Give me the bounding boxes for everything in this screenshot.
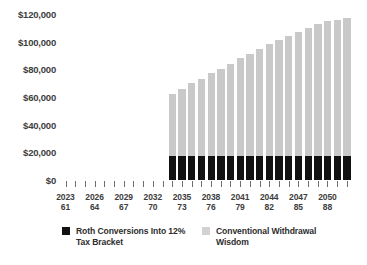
bar-group (158, 14, 168, 180)
bar-group (110, 14, 120, 180)
x-axis-tick (201, 181, 202, 187)
bar-group (333, 14, 343, 180)
bar-roth-conversions (178, 156, 185, 180)
y-axis-tick-label: $40,000 (23, 119, 56, 130)
x-axis-tick (66, 181, 67, 187)
bar-group (129, 14, 139, 180)
x-axis-tick (172, 181, 173, 187)
bar-roth-conversions (217, 156, 224, 180)
x-axis-tick (75, 181, 76, 187)
x-axis-tick (182, 181, 183, 187)
bar-group (80, 14, 90, 180)
legend-label-conventional: Conventional Withdrawal Wisdom (216, 226, 334, 248)
x-axis-tick (279, 181, 280, 187)
bar-roth-conversions (246, 156, 253, 180)
bar-roth-conversions (237, 156, 244, 180)
bar-roth-conversions (314, 156, 321, 180)
bar-group (139, 14, 149, 180)
x-axis-tick (260, 181, 261, 187)
bar-group (226, 14, 236, 180)
x-axis-tick (308, 181, 309, 187)
bar-group (61, 14, 71, 180)
x-axis-tick (124, 181, 125, 187)
x-axis-tick (347, 181, 348, 187)
bar-roth-conversions (295, 156, 302, 180)
x-axis-tick-label: 205088 (310, 192, 344, 213)
bar-group (168, 14, 178, 180)
legend-label-roth: Roth Conversions Into 12% Tax Bracket (76, 226, 194, 248)
legend-swatch-icon-roth (62, 227, 70, 235)
bar-roth-conversions (275, 156, 282, 180)
x-axis-tick (221, 181, 222, 187)
bar-roth-conversions (208, 156, 215, 180)
x-axis-tick (153, 181, 154, 187)
bar-group (304, 14, 314, 180)
bar-group (323, 14, 333, 180)
legend-swatch-icon-conventional (202, 227, 210, 235)
bar-group (119, 14, 129, 180)
bar-group (236, 14, 246, 180)
x-axis-tick (269, 181, 270, 187)
bar-roth-conversions (188, 156, 195, 180)
x-axis-year: 2050 (310, 192, 344, 202)
y-axis-tick-label: $80,000 (23, 64, 56, 75)
plot-area (61, 14, 361, 180)
y-axis-tick-label: $0 (46, 175, 56, 186)
bar-group (342, 14, 352, 180)
x-axis-tick (298, 181, 299, 187)
bar-group (187, 14, 197, 180)
bar-roth-conversions (324, 156, 331, 180)
bar-chart: $120,000$100,000$80,000$60,000$40,000$20… (0, 0, 367, 265)
x-axis-tick (240, 181, 241, 187)
bar-roth-conversions (334, 156, 341, 180)
x-axis-tick (104, 181, 105, 187)
bar-roth-conversions (266, 156, 273, 180)
x-axis-tick (163, 181, 164, 187)
x-axis-tick (289, 181, 290, 187)
bar-group (216, 14, 226, 180)
bar-group (265, 14, 275, 180)
bar-group (177, 14, 187, 180)
bar-group (284, 14, 294, 180)
bar-roth-conversions (305, 156, 312, 180)
x-axis-tick (114, 181, 115, 187)
bar-group (100, 14, 110, 180)
bar-roth-conversions (227, 156, 234, 180)
bar-group (313, 14, 323, 180)
x-axis-tick (211, 181, 212, 187)
x-axis-tick (85, 181, 86, 187)
bar-group (207, 14, 217, 180)
y-axis-tick-label: $120,000 (18, 9, 56, 20)
y-axis-tick-label: $60,000 (23, 92, 56, 103)
bar-group (197, 14, 207, 180)
x-axis-tick (337, 181, 338, 187)
legend-item-roth-conversions: Roth Conversions Into 12% Tax Bracket (62, 226, 194, 248)
y-axis-tick-label: $20,000 (23, 147, 56, 158)
x-axis-tick (250, 181, 251, 187)
bar-roth-conversions (285, 156, 292, 180)
x-axis-tick (133, 181, 134, 187)
bar-roth-conversions (343, 156, 350, 180)
bar-group (148, 14, 158, 180)
x-axis-tick (192, 181, 193, 187)
y-axis-labels: $120,000$100,000$80,000$60,000$40,000$20… (0, 0, 62, 190)
bar-roth-conversions (198, 156, 205, 180)
bar-group (245, 14, 255, 180)
x-axis-age: 88 (310, 202, 344, 213)
bar-group (294, 14, 304, 180)
bar-group (274, 14, 284, 180)
chart-legend: Roth Conversions Into 12% Tax Bracket Co… (62, 226, 362, 260)
x-axis-tick (95, 181, 96, 187)
bar-roth-conversions (256, 156, 263, 180)
legend-item-conventional-withdrawal: Conventional Withdrawal Wisdom (202, 226, 334, 248)
bar-group (71, 14, 81, 180)
x-axis-tick (143, 181, 144, 187)
x-axis-tick (230, 181, 231, 187)
bar-roth-conversions (169, 156, 176, 180)
x-axis-tick (318, 181, 319, 187)
bar-group (90, 14, 100, 180)
x-axis-tick (327, 181, 328, 187)
y-axis-tick-label: $100,000 (18, 36, 56, 47)
bar-group (255, 14, 265, 180)
